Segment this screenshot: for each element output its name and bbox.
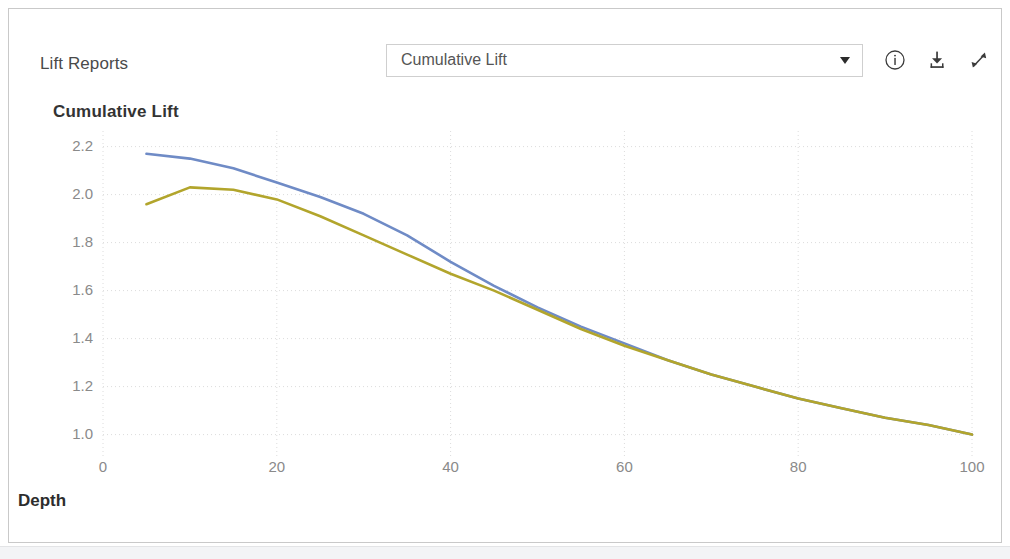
x-axis-tick-label: 60 (594, 458, 654, 475)
series-line-1 (146, 154, 972, 435)
x-axis-tick-label: 20 (247, 458, 307, 475)
x-axis-title-text: Depth (18, 491, 66, 510)
x-axis-tick-label: 0 (73, 458, 133, 475)
y-axis-tick-label: 2.2 (47, 137, 93, 154)
x-axis-tick-label: 80 (768, 458, 828, 475)
x-axis-tick-label: 100 (942, 458, 1002, 475)
y-axis-tick-label: 1.6 (47, 281, 93, 298)
y-axis-tick-label: 2.0 (47, 185, 93, 202)
y-axis-tick-label: 1.0 (47, 425, 93, 442)
page-root: Lift Reports Cumulative Lift (0, 0, 1010, 559)
chart-plot-area: 1.01.21.41.61.82.02.2020406080100 (9, 9, 1001, 542)
y-axis-tick-label: 1.4 (47, 329, 93, 346)
x-axis-tick-label: 40 (421, 458, 481, 475)
x-axis-title: Depth (9, 491, 1001, 511)
y-axis-tick-label: 1.2 (47, 377, 93, 394)
y-axis-tick-label: 1.8 (47, 233, 93, 250)
page-bottom-strip (0, 546, 1010, 559)
line-chart (9, 9, 1001, 542)
series-line-2 (146, 187, 972, 434)
lift-reports-card: Lift Reports Cumulative Lift (8, 8, 1002, 543)
